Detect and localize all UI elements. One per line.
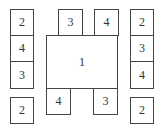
right-box-2: 3 [130,35,154,62]
box-label: 4 [56,94,62,109]
box-label: 2 [139,15,145,30]
center-box: 1 [46,35,118,89]
center-box-label: 1 [79,55,85,70]
right-box-1: 2 [130,9,154,36]
top-box-2: 4 [94,9,119,36]
box-label: 3 [68,15,74,30]
bottom-box-2: 3 [93,88,118,115]
box-label: 2 [19,15,25,30]
box-label: 2 [139,103,145,118]
box-label: 3 [19,68,25,83]
box-label: 3 [139,41,145,56]
right-box-3: 4 [130,61,154,89]
top-box-1: 3 [58,9,83,36]
left-box-4: 2 [10,97,34,124]
left-box-2: 4 [10,35,34,62]
box-label: 4 [19,41,25,56]
box-label: 4 [139,68,145,83]
left-box-1: 2 [10,9,34,36]
box-label: 3 [103,94,109,109]
bottom-box-1: 4 [46,88,71,115]
left-box-3: 3 [10,61,34,89]
box-label: 4 [104,15,110,30]
box-label: 2 [19,103,25,118]
right-box-4: 2 [130,97,154,124]
